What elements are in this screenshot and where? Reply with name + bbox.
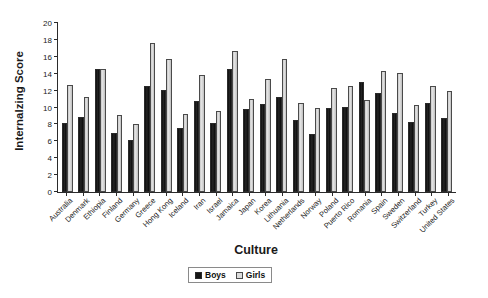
legend-label-girls: Girls — [246, 270, 265, 280]
bar-group — [59, 23, 76, 192]
internalizing-score-bar-chart: Internalzing Score 02468101214161820 Aus… — [0, 0, 488, 298]
y-tick-label: 8 — [48, 120, 52, 129]
bar-group — [92, 23, 109, 192]
bar-group — [125, 23, 142, 192]
bar-group — [439, 23, 456, 192]
bar-group — [356, 23, 373, 192]
x-tick-label: Japan — [236, 196, 257, 217]
legend-item-girls: Girls — [236, 270, 265, 280]
bar-group — [158, 23, 175, 192]
x-axis-title: Culture — [57, 243, 455, 257]
bar-girls — [117, 115, 123, 192]
bar-girls — [397, 73, 403, 192]
bar-group — [307, 23, 324, 192]
legend-swatch-girls-icon — [236, 272, 243, 279]
bar-girls — [348, 86, 354, 192]
bar-group — [274, 23, 291, 192]
y-tick-label: 2 — [48, 171, 52, 180]
bar-girls — [183, 114, 189, 192]
bar-group — [340, 23, 357, 192]
bar-girls — [447, 91, 453, 192]
bar-girls — [249, 99, 255, 192]
bar-group — [323, 23, 340, 192]
y-tick-label: 18 — [43, 35, 52, 44]
y-tick-label: 12 — [43, 86, 52, 95]
bar-group — [208, 23, 225, 192]
y-tick-label: 16 — [43, 52, 52, 61]
y-tick-label: 0 — [48, 188, 52, 197]
bars-layer — [58, 23, 456, 192]
x-axis-tick-labels: AustraliaDenmarkEthiopiaFinlandGermanyGr… — [57, 196, 455, 242]
bar-group — [224, 23, 241, 192]
bar-group — [290, 23, 307, 192]
bar-group — [142, 23, 159, 192]
bar-girls — [282, 59, 288, 193]
bar-group — [406, 23, 423, 192]
bar-group — [422, 23, 439, 192]
y-axis-title-label: Internalzing Score — [13, 51, 25, 151]
bar-group — [373, 23, 390, 192]
bar-girls — [364, 100, 370, 192]
bar-group — [109, 23, 126, 192]
bar-girls — [414, 105, 420, 192]
bar-girls — [67, 85, 73, 192]
y-tick-label: 14 — [43, 69, 52, 78]
y-tick-label: 20 — [43, 19, 52, 28]
bar-group — [76, 23, 93, 192]
legend-swatch-boys-icon — [195, 272, 202, 279]
bar-girls — [315, 108, 321, 192]
bar-girls — [265, 79, 271, 192]
bar-group — [175, 23, 192, 192]
y-axis-title: Internalzing Score — [8, 12, 30, 190]
bar-girls — [430, 86, 436, 192]
y-tick-label: 6 — [48, 137, 52, 146]
bar-girls — [216, 111, 222, 192]
bar-group — [257, 23, 274, 192]
bar-girls — [150, 43, 156, 192]
bar-girls — [133, 124, 139, 192]
bar-girls — [199, 75, 205, 192]
bar-girls — [100, 69, 106, 192]
bar-girls — [331, 88, 337, 192]
bar-group — [389, 23, 406, 192]
chart-legend: Boys Girls — [188, 267, 272, 283]
bar-girls — [381, 71, 387, 192]
y-tick-label: 4 — [48, 154, 52, 163]
plot-area: 02468101214161820 — [57, 23, 456, 193]
y-tick-label: 10 — [43, 103, 52, 112]
bar-girls — [84, 97, 90, 192]
bar-girls — [232, 51, 238, 192]
legend-label-boys: Boys — [205, 270, 226, 280]
bar-group — [191, 23, 208, 192]
legend-item-boys: Boys — [195, 270, 226, 280]
bar-group — [241, 23, 258, 192]
bar-girls — [166, 59, 172, 192]
bar-girls — [298, 103, 304, 192]
